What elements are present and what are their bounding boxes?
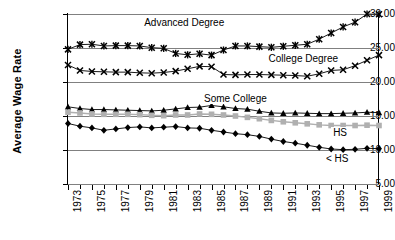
series-label-hs: < HS [324, 153, 351, 164]
series-label-advanced-degree: Advanced Degree [142, 17, 226, 28]
series-hs [65, 109, 382, 128]
x-axis-tick-mark [80, 185, 81, 189]
x-axis-tick-mark [140, 185, 141, 190]
x-axis-tick-mark [319, 185, 320, 189]
x-axis-tick-label: 1997 [359, 190, 370, 212]
x-axis-tick-mark [152, 185, 153, 189]
x-axis-tick-mark [271, 185, 272, 189]
x-axis-tick-mark [212, 185, 213, 190]
x-axis-tick-mark [235, 185, 236, 190]
x-axis-tick-label: 1985 [216, 190, 227, 212]
x-axis-tick-label: 1993 [311, 190, 322, 212]
x-axis-tick-mark [104, 185, 105, 189]
x-axis-tick-label: 1973 [72, 190, 83, 212]
x-axis-tick-mark [307, 185, 308, 190]
x-axis-tick-mark [355, 185, 356, 190]
x-axis-tick-mark [164, 185, 165, 190]
x-axis-tick-mark [259, 185, 260, 190]
x-axis-tick-label: 1995 [335, 190, 346, 212]
x-axis-tick-mark [379, 185, 380, 190]
x-axis-tick-mark [295, 185, 296, 189]
x-axis-tick-label: 1983 [192, 190, 203, 212]
x-axis-tick-mark [331, 185, 332, 190]
chart-container: Average Wage Rate 5.0010.0015.0020.0025.… [0, 0, 395, 240]
series-label-hs: HS [331, 127, 349, 138]
x-axis-tick-label: 1977 [120, 190, 131, 212]
x-axis-tick-mark [200, 185, 201, 189]
x-axis-tick-label: 1981 [168, 190, 179, 212]
x-axis-tick-label: 1999 [383, 190, 394, 212]
series-label-some-college: Some College [202, 93, 269, 104]
x-axis-tick-mark [283, 185, 284, 190]
x-axis-tick-mark [92, 185, 93, 190]
x-axis-tick-mark [128, 185, 129, 189]
x-axis-tick-mark [247, 185, 248, 189]
x-axis-tick-mark [224, 185, 225, 189]
series-label-college-degree: College Degree [267, 53, 341, 64]
y-axis-title: Average Wage Rate [11, 26, 23, 176]
x-axis-tick-label: 1991 [287, 190, 298, 212]
x-axis-tick-mark [68, 185, 69, 190]
x-axis-tick-mark [343, 185, 344, 189]
x-axis-tick-mark [367, 185, 368, 189]
x-axis-tick-label: 1975 [96, 190, 107, 212]
x-axis-tick-label: 1989 [263, 190, 274, 212]
x-axis-tick-label: 1979 [144, 190, 155, 212]
x-axis-tick-mark [188, 185, 189, 190]
x-axis-tick-label: 1987 [239, 190, 250, 212]
x-axis-tick-mark [116, 185, 117, 190]
x-axis-tick-mark [176, 185, 177, 189]
